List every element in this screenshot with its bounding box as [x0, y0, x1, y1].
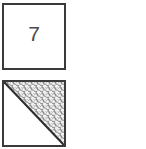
cell-number-label: 7 [28, 23, 40, 44]
numbered-cell: 7 [2, 3, 66, 70]
diagonal-split-graphic [4, 82, 64, 145]
shaded-cell [2, 80, 66, 147]
figure-canvas: 7 [0, 0, 146, 149]
